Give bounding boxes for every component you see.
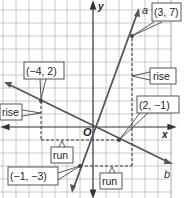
point-label-2-neg1: (2, −1) [139,99,170,111]
run-label-a: run [102,175,117,187]
point-label-3-7: (3, 7) [154,6,179,18]
point-label-neg4-2: (−4, 2) [26,65,57,77]
line-b-arrow-icon [164,158,173,164]
y-axis-arrow-down-icon [91,190,96,197]
line-b-label: b [164,168,170,180]
line-a-arrow-icon [134,8,140,17]
line-a-label: a [142,4,148,16]
y-axis-arrow-icon [91,2,96,9]
rise-label-b: rise [2,106,19,118]
run-label-b: run [53,149,68,161]
callouts [0,3,181,189]
point-label-neg1-neg3: (−1, −3) [10,170,47,182]
x-axis-label: x [161,129,168,140]
point-neg4-2 [39,99,43,103]
coordinate-plane: y x O a b [0,0,184,198]
origin-label: O [83,126,92,138]
line-b-arrow-left-icon [4,82,12,88]
rise-label-a: rise [153,70,170,82]
y-axis-label: y [97,1,104,12]
